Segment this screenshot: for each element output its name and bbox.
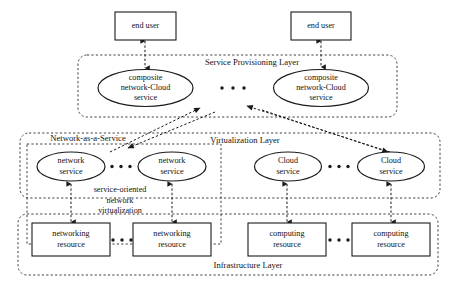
cloud-service-2-line1: Cloud <box>381 156 401 165</box>
ellipsis-cloud-services <box>328 165 349 168</box>
side-annotation-line2: network <box>107 196 135 205</box>
network-service-2-line1: network <box>159 156 187 165</box>
networking-resource-1-line2: resource <box>57 240 85 249</box>
connector-network-service-to-composite1 <box>110 108 200 152</box>
ellipsis-networking-resources <box>111 238 132 241</box>
networking-resource-1-line1: networking <box>52 229 89 238</box>
cloud-service-node-2[interactable]: Cloud service <box>358 152 425 181</box>
end-user-node-2[interactable]: end user <box>291 12 351 40</box>
computing-resource-2-line1: computing <box>373 229 408 238</box>
computing-resource-node-1[interactable]: computing resource <box>248 223 326 256</box>
ellipsis-composite-services <box>220 86 245 89</box>
connector-composite2-to-cloud <box>262 110 388 152</box>
composite-service-2-line3: service <box>309 93 333 102</box>
network-service-2-line2: service <box>160 167 184 176</box>
network-service-node-1[interactable]: network service <box>37 152 105 181</box>
composite-service-node-1[interactable]: composite network-Cloud service <box>98 70 193 107</box>
side-annotation: service-oriented network virtualization <box>94 185 147 215</box>
service-provisioning-layer-label: Service Provisioning Layer <box>205 57 299 67</box>
computing-resource-1-line2: resource <box>273 240 301 249</box>
side-annotation-line3: virtualization <box>98 206 142 215</box>
composite-service-2-line1: composite <box>304 73 338 82</box>
cloud-service-2-line2: service <box>379 167 403 176</box>
naas-label: Network-as-a-Service <box>50 133 126 143</box>
networking-resource-node-2[interactable]: networking resource <box>133 223 211 256</box>
networking-resource-2-line1: networking <box>153 229 190 238</box>
infrastructure-layer-label: Infrastructure Layer <box>214 260 283 270</box>
computing-resource-2-line2: resource <box>377 240 405 249</box>
network-service-1-line2: service <box>59 167 83 176</box>
end-user-label-2: end user <box>307 21 335 30</box>
networking-resource-node-1[interactable]: networking resource <box>32 223 110 256</box>
architecture-diagram: Service Provisioning Layer Virtualizatio… <box>0 0 458 293</box>
computing-resource-node-2[interactable]: computing resource <box>352 223 430 256</box>
end-user-label-1: end user <box>132 21 160 30</box>
composite-service-1-line1: composite <box>129 73 163 82</box>
connector-composite1-to-naas <box>128 112 215 148</box>
cloud-service-1-line2: service <box>276 167 300 176</box>
side-annotation-line1: service-oriented <box>94 185 147 194</box>
diagram-canvas: Service Provisioning Layer Virtualizatio… <box>0 0 458 293</box>
network-service-node-2[interactable]: network service <box>138 152 206 181</box>
cloud-service-node-1[interactable]: Cloud service <box>255 152 322 181</box>
virtualization-layer-label: Virtualization Layer <box>210 135 280 145</box>
ellipsis-network-services <box>110 165 131 168</box>
end-user-node-1[interactable]: end user <box>115 12 176 40</box>
network-service-1-line1: network <box>58 156 86 165</box>
composite-service-node-2[interactable]: composite network-Cloud service <box>274 70 369 107</box>
composite-service-1-line2: network-Cloud <box>121 83 171 92</box>
composite-service-2-line2: network-Cloud <box>296 83 346 92</box>
composite-service-1-line3: service <box>134 93 158 102</box>
cloud-service-1-line1: Cloud <box>278 156 298 165</box>
ellipsis-computing-resources <box>328 238 349 241</box>
networking-resource-2-line2: resource <box>158 240 186 249</box>
computing-resource-1-line1: computing <box>269 229 304 238</box>
